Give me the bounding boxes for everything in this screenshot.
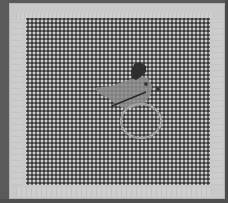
charm-eye-dot <box>144 82 148 86</box>
charm-ring-shape <box>121 104 161 138</box>
charm-dot <box>156 87 160 91</box>
charm-object <box>0 0 228 203</box>
